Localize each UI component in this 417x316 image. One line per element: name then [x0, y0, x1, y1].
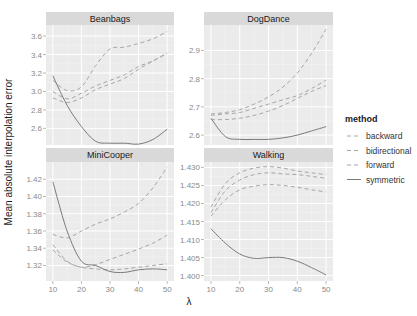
y-tick-label: 1.34	[26, 244, 42, 253]
facet-strip-label: DogDance	[247, 14, 290, 24]
y-tick-label: 1.42	[26, 175, 42, 184]
panel-beanbags: Beanbags2.62.83.03.23.43.6	[31, 12, 174, 145]
y-tick-label: 1.420	[180, 199, 201, 208]
y-tick-label: 1.415	[180, 218, 201, 227]
y-tick-label: 2.8	[189, 75, 201, 84]
legend-label: forward	[366, 160, 395, 170]
legend-item-backward: backward	[347, 131, 403, 141]
x-tick-label: 50	[322, 285, 331, 294]
faceted-line-chart: Beanbags2.62.83.03.23.43.6DogDance2.62.7…	[0, 0, 417, 316]
x-tick-label: 50	[163, 285, 172, 294]
y-axis-title: Mean absolute interpolation error	[3, 78, 14, 225]
y-tick-label: 1.400	[180, 272, 201, 281]
y-tick-label: 1.430	[180, 163, 201, 172]
y-tick-label: 1.405	[180, 254, 201, 263]
y-tick-label: 2.8	[31, 106, 43, 115]
x-tick-label: 40	[293, 285, 302, 294]
y-tick-label: 3.2	[31, 69, 43, 78]
x-tick-label: 20	[77, 285, 86, 294]
panel-walking: Walking1.4001.4051.4101.4151.4201.4251.4…	[180, 148, 333, 294]
legend-label: bidirectional	[366, 146, 411, 156]
legend-item-bidirectional: bidirectional	[347, 146, 411, 156]
y-tick-label: 1.32	[26, 261, 42, 270]
legend-item-symmetric: symmetric	[347, 175, 405, 185]
y-tick-label: 2.9	[189, 46, 201, 55]
legend-title: method	[345, 114, 378, 124]
x-tick-label: 40	[134, 285, 143, 294]
chart-panels: Beanbags2.62.83.03.23.43.6DogDance2.62.7…	[26, 12, 333, 294]
y-tick-label: 1.410	[180, 236, 201, 245]
x-axis-title: λ	[187, 296, 192, 307]
panel-dogdance: DogDance2.62.72.82.9	[189, 12, 333, 145]
y-tick-label: 2.6	[189, 131, 201, 140]
x-tick-label: 20	[235, 285, 244, 294]
x-tick-label: 30	[106, 285, 115, 294]
legend-label: symmetric	[366, 175, 405, 185]
y-tick-label: 2.6	[31, 124, 43, 133]
facet-strip-label: Beanbags	[90, 14, 131, 24]
y-tick-label: 1.425	[180, 181, 201, 190]
y-tick-label: 1.36	[26, 227, 42, 236]
legend: method backwardbidirectionalforwardsymme…	[345, 114, 411, 185]
legend-label: backward	[366, 131, 403, 141]
x-tick-label: 10	[48, 285, 57, 294]
x-tick-label: 10	[206, 285, 215, 294]
y-tick-label: 1.38	[26, 210, 42, 219]
legend-item-forward: forward	[347, 160, 395, 170]
y-tick-label: 3.4	[31, 51, 43, 60]
y-tick-label: 3.6	[31, 32, 43, 41]
x-tick-label: 30	[264, 285, 273, 294]
facet-strip-label: MiniCooper	[87, 150, 133, 160]
y-tick-label: 1.40	[26, 192, 42, 201]
facet-strip-label: Walking	[253, 150, 285, 160]
y-tick-label: 2.7	[189, 103, 201, 112]
panel-minicooper: MiniCooper1.321.341.361.381.401.42102030…	[26, 148, 174, 294]
y-tick-label: 3.0	[31, 87, 43, 96]
